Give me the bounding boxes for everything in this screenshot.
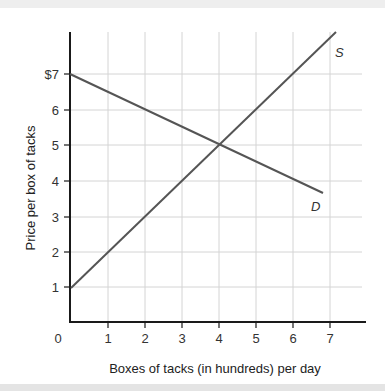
x-tick-label-3: 3: [178, 331, 185, 346]
grid: [70, 32, 362, 322]
demand-label: D: [311, 199, 320, 214]
x-tick-label-2: 2: [141, 331, 148, 346]
y-tick-labels: 1 2 3 4 5 6 $7: [45, 67, 59, 295]
x-tick-labels: 0 1 2 3 4 5 6 7: [54, 331, 333, 346]
x-tick-label-7: 7: [326, 331, 333, 346]
y-tick-label-4: 4: [52, 174, 59, 189]
x-tick-label-1: 1: [104, 331, 111, 346]
y-tick-label-1: 1: [52, 280, 59, 295]
supply-curve: [71, 32, 336, 288]
x-tick-label-6: 6: [289, 331, 296, 346]
y-tick-label-7: $7: [45, 67, 59, 82]
y-tick-label-5: 5: [52, 138, 59, 153]
y-tick-label-6: 6: [52, 103, 59, 118]
x-axis-title: Boxes of tacks (in hundreds) per day: [109, 361, 321, 376]
y-tick-label-2: 2: [52, 245, 59, 260]
y-tick-label-3: 3: [52, 210, 59, 225]
x-tick-label-5: 5: [252, 331, 259, 346]
supply-label: S: [335, 45, 344, 60]
supply-demand-chart: S D 1 2 3 4 5 6 $7 0 1 2 3 4 5 6 7 Boxes…: [0, 0, 385, 391]
x-tick-label-4: 4: [215, 331, 222, 346]
x-tick-label-0: 0: [54, 331, 61, 346]
y-axis-title: Price per box of tacks: [23, 125, 38, 250]
